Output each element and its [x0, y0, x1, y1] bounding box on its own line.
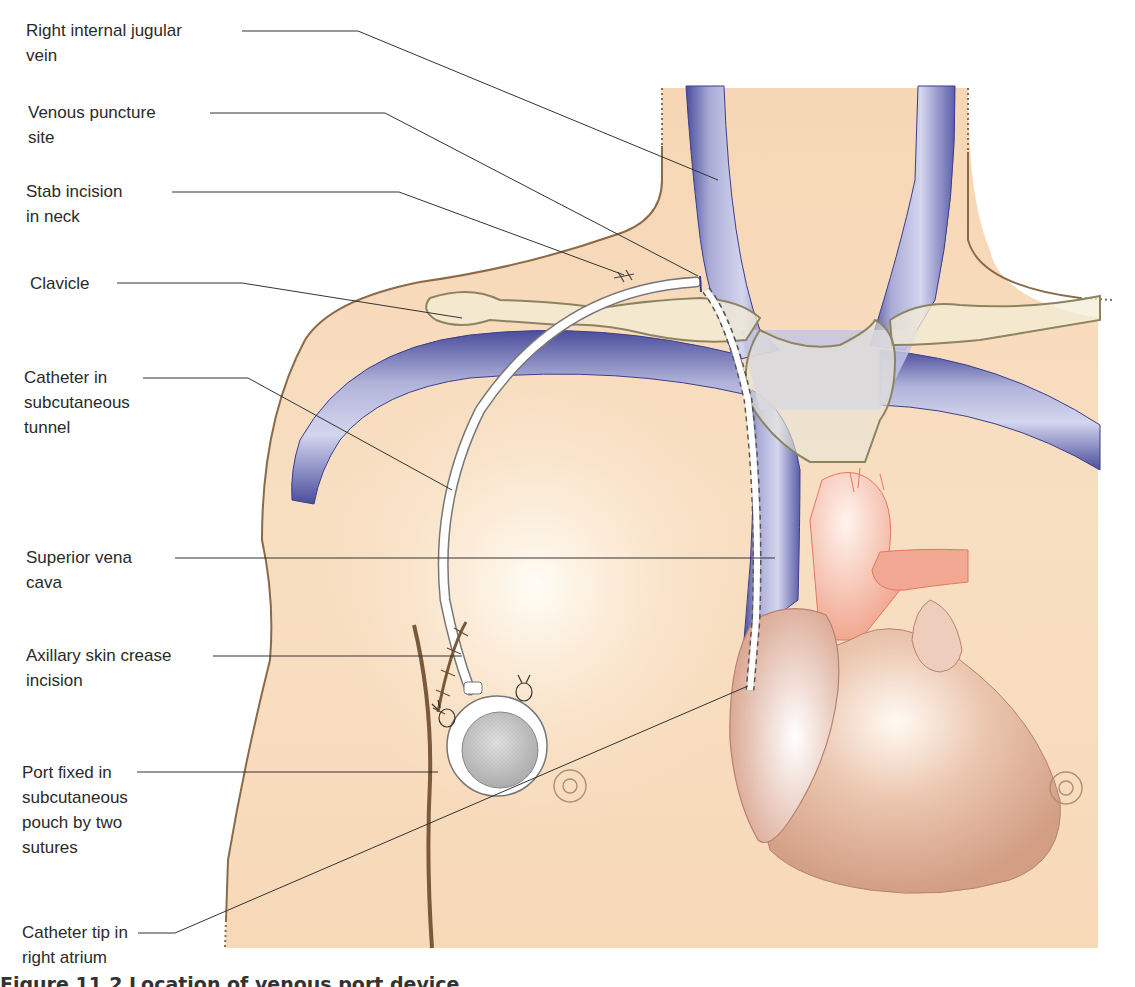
label-port-fixed-in-subcutaneous-pouch: Port fixed in subcutaneous pouch by two …: [22, 760, 128, 860]
label-catheter-tip-in-right-atrium: Catheter tip in right atrium: [22, 920, 128, 970]
label-superior-vena-cava: Superior vena cava: [26, 545, 132, 595]
label-axillary-skin-crease-incision: Axillary skin crease incision: [26, 643, 172, 693]
label-catheter-in-subcutaneous-tunnel: Catheter in subcutaneous tunnel: [24, 365, 130, 440]
anatomy-diagram: Right internal jugular vein Venous punct…: [0, 0, 1135, 987]
label-right-internal-jugular-vein: Right internal jugular vein: [26, 18, 182, 68]
label-stab-incision-in-neck: Stab incision in neck: [26, 179, 122, 229]
port-placement-illustration: [0, 0, 1135, 987]
figure-caption: Figure 11.2 Location of venous port devi…: [0, 972, 460, 987]
label-venous-puncture-site: Venous puncture site: [28, 100, 156, 150]
label-clavicle: Clavicle: [30, 271, 90, 296]
